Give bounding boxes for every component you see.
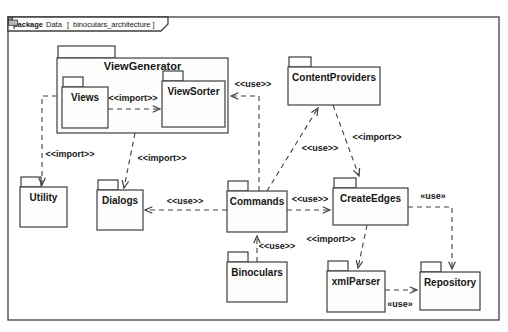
package-tab — [58, 46, 115, 58]
commands-uses-contentproviders: <<use>> — [267, 108, 338, 191]
package-tab — [63, 77, 83, 87]
package-tab — [421, 262, 441, 272]
package-tab — [163, 71, 183, 81]
stereotype-label: <<use>> — [167, 196, 204, 206]
package-tab — [228, 252, 248, 262]
binoculars-uses-commands: <<use>> — [254, 236, 296, 262]
viewgenerator-imports-dialogs: <<import>> — [122, 133, 186, 188]
frame-diagram-name: binoculars_architecture — [73, 20, 151, 29]
package-repository: Repository — [420, 262, 480, 310]
stereotype-label: <<use>> — [302, 143, 339, 153]
package-label: Repository — [424, 277, 477, 288]
package-tab — [334, 178, 356, 188]
open-arrowhead-icon — [353, 168, 359, 176]
stereotype-label: <<import>> — [306, 234, 355, 244]
package-label: ContentProviders — [292, 72, 376, 83]
package-xmlparser: xmlParser — [327, 261, 385, 312]
createedges-uses-repository: «use» — [408, 191, 455, 269]
frame-title: Data — [46, 20, 62, 29]
package-label: Binoculars — [231, 267, 283, 278]
package-label: Views — [71, 92, 100, 103]
diagram-canvas: ViewGeneratorViewsViewSorterContentProvi… — [0, 0, 508, 332]
stereotype-label: <<use>> — [235, 79, 272, 89]
package-createedges: CreateEdges — [333, 178, 408, 225]
package-label: Utility — [30, 192, 58, 203]
contentproviders-imports-createedges: <<import>> — [333, 105, 402, 176]
package-utility: Utility — [20, 177, 67, 227]
uml-package-diagram: ViewGeneratorViewsViewSorterContentProvi… — [0, 0, 508, 332]
stereotype-label: <<use>> — [259, 241, 296, 251]
package-label: ViewSorter — [167, 86, 219, 97]
frame-tab: package Data [ binoculars_architecture ] — [8, 17, 168, 31]
package-label: Dialogs — [102, 195, 139, 206]
dependency-line — [42, 96, 57, 185]
package-contentproviders: ContentProviders — [288, 57, 380, 105]
package-tab — [289, 57, 311, 67]
package-commands: Commands — [227, 181, 287, 232]
commands-uses-dialogs: <<use>> — [145, 196, 227, 213]
xmlparser-uses-repository: «use» — [385, 287, 417, 309]
package-label: xmlParser — [332, 276, 380, 287]
dependency-line — [408, 207, 452, 269]
stereotype-label: «use» — [387, 299, 413, 309]
stereotype-label: <<use>> — [292, 194, 329, 204]
stereotype-label: «use» — [420, 191, 446, 201]
dependency-line — [124, 133, 135, 188]
frame-close-bracket: ] — [153, 20, 155, 29]
stereotype-label: <<import>> — [108, 93, 157, 103]
package-tab — [98, 180, 118, 190]
package-tab — [21, 177, 41, 187]
package-label: Commands — [230, 196, 285, 207]
package-tab — [328, 261, 348, 271]
frame-open-bracket: [ — [67, 20, 69, 29]
package-tab — [228, 181, 248, 191]
package-label: ViewGenerator — [104, 60, 182, 72]
open-arrowhead-icon — [311, 108, 318, 116]
dependency-line — [231, 96, 259, 191]
commands-uses-createedges: <<use>> — [287, 194, 330, 213]
stereotype-label: <<import>> — [352, 132, 401, 142]
commands-uses-viewsorter: <<use>> — [231, 79, 271, 191]
package-dialogs: Dialogs — [97, 180, 143, 230]
stereotype-label: <<import>> — [45, 149, 94, 159]
stereotype-label: <<import>> — [137, 153, 186, 163]
package-label: CreateEdges — [340, 193, 402, 204]
